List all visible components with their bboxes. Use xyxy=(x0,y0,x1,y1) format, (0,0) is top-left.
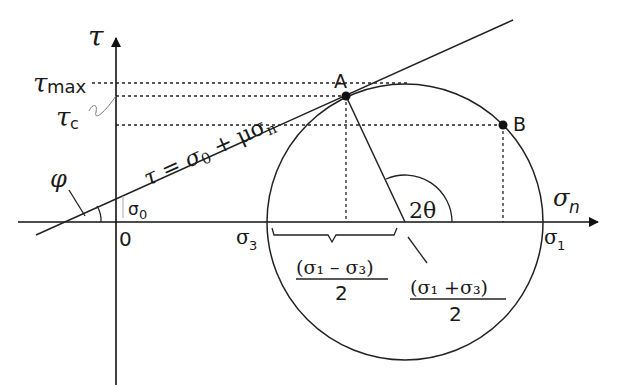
radius-brace xyxy=(272,228,397,242)
tau-max-label-sub: max xyxy=(47,76,87,97)
origin-label: 0 xyxy=(119,227,132,251)
mohr-circle-diagram: τ τ max τ c φ σ 0 0 τ = σ0 + μσn A B σ n… xyxy=(0,0,618,385)
sigma1-label-main: σ xyxy=(544,225,558,249)
tau-c-pointer xyxy=(89,96,116,116)
sigma-n-label-main: σ xyxy=(553,184,570,212)
dotted-guides xyxy=(92,83,503,222)
tau-c-label-sub: c xyxy=(70,114,79,133)
equation-prefix: τ = σ xyxy=(140,143,206,191)
sigma0-label-sub: 0 xyxy=(139,207,147,222)
sigma1-label-sub: 1 xyxy=(557,238,565,253)
point-a xyxy=(342,92,351,101)
phi-label: φ xyxy=(50,165,67,193)
sigma-n-label-sub: n xyxy=(569,197,580,217)
point-a-label: A xyxy=(334,70,347,92)
point-b-label: B xyxy=(513,113,526,135)
envelope-equation: τ = σ0 + μσn xyxy=(140,110,280,194)
phi-angle-arc xyxy=(97,206,101,222)
center-fraction-numerator: (σ₁ +σ₃) xyxy=(410,276,488,298)
tau-axis-label: τ xyxy=(88,20,104,53)
point-b xyxy=(499,121,508,130)
tau-c-label-main: τ xyxy=(56,102,71,132)
radius-line xyxy=(346,96,405,222)
svg-text:τ = σ0 + μσn: τ = σ0 + μσn xyxy=(140,110,280,194)
center-fraction-denominator: 2 xyxy=(449,302,462,326)
center-pointer-line xyxy=(408,237,427,263)
sigma3-label-main: σ xyxy=(236,225,250,249)
sigma3-label-sub: 3 xyxy=(249,238,257,253)
phi-pointer-line xyxy=(69,190,85,216)
two-theta-label: 2θ xyxy=(409,198,436,223)
radius-fraction-numerator: (σ₁ – σ₃) xyxy=(296,256,374,278)
equation-mid: + μσ xyxy=(203,114,270,162)
tau-max-label-main: τ xyxy=(33,68,48,98)
radius-fraction-denominator: 2 xyxy=(335,281,348,305)
sigma0-label-main: σ xyxy=(128,199,139,219)
